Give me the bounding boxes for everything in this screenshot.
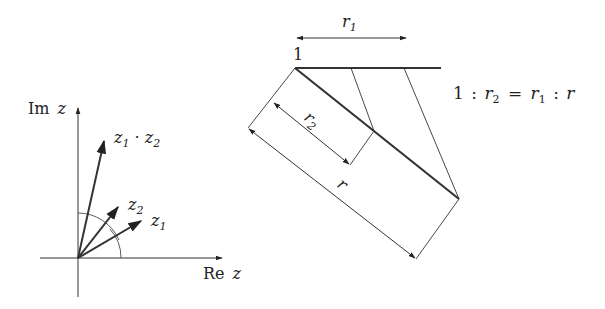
proportion-equation: 1 : r2 = r1 : r	[453, 83, 575, 107]
left-edge	[248, 68, 295, 128]
r2-label: r2	[299, 107, 324, 133]
construction-line-2	[404, 68, 459, 199]
complex-plane-diagram: Im z Re z z1 · z2 z2 z1	[28, 99, 242, 297]
similar-triangles-diagram: r1 1 r2 r 1 : r2 = r1 : r	[248, 12, 575, 259]
r-label: r	[334, 174, 353, 195]
small-corner-edge	[350, 131, 374, 165]
complex-multiplication-figure: Im z Re z z1 · z2 z2 z1 r1 1	[0, 0, 605, 309]
imaginary-axis-label: Im z	[28, 99, 67, 118]
z2-label: z2	[127, 195, 143, 217]
r-dimension-arrow	[249, 129, 415, 258]
diagonal-line	[295, 68, 459, 199]
unit-label: 1	[293, 45, 303, 64]
r1-label: r1	[342, 12, 357, 34]
z1-label: z1	[150, 211, 166, 233]
bottom-right-edge	[416, 199, 459, 259]
real-axis-label: Re z	[203, 264, 242, 283]
product-label: z1 · z2	[113, 128, 160, 150]
